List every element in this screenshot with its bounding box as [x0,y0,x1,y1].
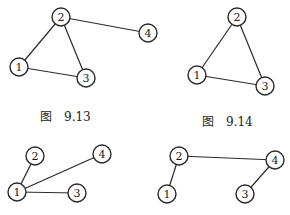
node-label: 1 [164,188,171,201]
edge-2-4 [61,17,148,33]
node-label: 4 [272,154,279,167]
graph-fig-9-14: 123 [188,8,274,95]
node-3: 3 [236,185,254,203]
node-2: 2 [228,8,246,26]
graph-fig-9-13: 1234 [10,8,157,87]
node-label: 2 [58,11,65,24]
edge-1-3 [197,75,265,86]
edge-2-3 [237,17,265,86]
node-1: 1 [158,185,176,203]
caption-number: 9.14 [226,115,253,129]
node-2: 2 [26,147,44,165]
node-1: 1 [188,66,206,84]
caption-prefix: 图 [202,115,214,129]
node-label: 4 [145,27,152,40]
node-3: 3 [68,184,86,202]
node-3: 3 [256,77,274,95]
node-label: 2 [32,150,39,163]
caption-prefix: 图 [40,110,52,124]
node-label: 2 [234,11,241,24]
figure-caption: 图9.14 [202,112,253,129]
node-label: 3 [262,80,269,93]
node-3: 3 [77,69,95,87]
edge-1-2 [19,17,61,67]
node-1: 1 [10,58,28,76]
graph-fig-bottom-left: 1234 [8,145,111,202]
edge-1-3 [19,67,86,78]
figure-caption: 图9.13 [40,107,91,124]
node-1: 1 [8,183,26,201]
edge-2-4 [179,156,275,160]
edge-2-3 [61,17,86,78]
node-2: 2 [52,8,70,26]
node-label: 3 [74,187,81,200]
node-label: 2 [176,150,183,163]
node-4: 4 [93,145,111,163]
edge-1-2 [197,17,237,75]
node-label: 4 [99,148,106,161]
caption-number: 9.13 [64,110,91,124]
graph-fig-bottom-right: 1234 [158,147,284,203]
node-label: 1 [194,69,201,82]
node-4: 4 [266,151,284,169]
node-label: 3 [83,72,90,85]
node-4: 4 [139,24,157,42]
node-2: 2 [170,147,188,165]
node-label: 1 [16,61,23,74]
node-label: 3 [242,188,249,201]
node-label: 1 [14,186,21,199]
